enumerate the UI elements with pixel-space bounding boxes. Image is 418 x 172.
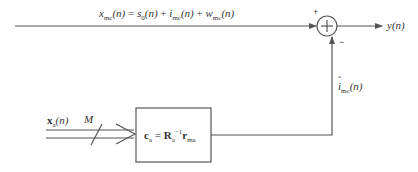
block-equation: ca = Ra−1rma [144, 130, 196, 141]
bus-width-slash [91, 124, 102, 145]
summing-junction [317, 16, 337, 36]
feedback-label: iˆmc(n) [338, 81, 362, 92]
top-signal-label: xmc(n) = s0(n) + imc(n) + wmc(n) [99, 8, 234, 19]
bus-width-label: M [84, 114, 93, 125]
plus-sign: + [313, 8, 318, 17]
input-label: xa(n) [47, 115, 68, 126]
output-label: y(n) [387, 20, 405, 31]
minus-sign: − [339, 38, 344, 47]
input-bus [46, 124, 135, 144]
